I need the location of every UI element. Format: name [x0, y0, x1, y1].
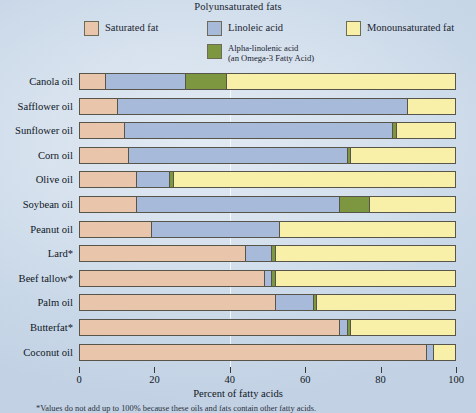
- x-axis-tick-label: 0: [76, 374, 81, 385]
- bar-row: [79, 98, 456, 115]
- x-axis-tick-label: 100: [448, 374, 464, 385]
- bar-segment: [350, 319, 456, 336]
- bar-segment: [339, 319, 347, 336]
- bar-segment: [396, 122, 456, 139]
- legend-swatch-alpha-linolenic-acid: [207, 44, 222, 59]
- bar-row-label: Olive oil: [0, 171, 73, 188]
- x-axis-tick: [230, 367, 231, 373]
- bar-row: [79, 122, 456, 139]
- bar-segment: [79, 270, 264, 287]
- x-axis-tick: [79, 367, 80, 373]
- bar-row: [79, 344, 456, 361]
- bar-segment: [79, 319, 339, 336]
- bar-segment: [79, 73, 105, 90]
- bar-segment: [151, 221, 279, 238]
- legend-label-linoleic-acid: Linoleic acid: [228, 21, 283, 33]
- bar-segment: [185, 73, 226, 90]
- bar-segment: [275, 270, 456, 287]
- x-axis-tick: [381, 367, 382, 373]
- bar-segment: [426, 344, 434, 361]
- x-axis-tick-label: 20: [149, 374, 160, 385]
- bar-segment: [275, 294, 313, 311]
- bar-row: [79, 171, 456, 188]
- bar-row: [79, 73, 456, 90]
- legend-entry-saturated-fat: Saturated fat: [84, 21, 158, 36]
- bar-row-label: Corn oil: [0, 147, 73, 164]
- x-axis-tick: [154, 367, 155, 373]
- bar-row: [79, 270, 456, 287]
- bar-segment: [407, 98, 456, 115]
- legend-entry-alpha-linolenic-acid: Alpha-linolenic acid (an Omega-3 Fatty A…: [207, 44, 314, 63]
- bar-segment: [245, 245, 271, 262]
- chart-page: Polyunsaturated fats Saturated fat Linol…: [0, 0, 476, 413]
- legend-swatch-saturated-fat: [84, 21, 99, 36]
- bar-row-label: Peanut oil: [0, 221, 73, 238]
- x-axis-tick: [456, 367, 457, 373]
- bar-row: [79, 319, 456, 336]
- bar-segment: [124, 122, 392, 139]
- bar-row: [79, 196, 456, 213]
- bar-segment: [128, 147, 347, 164]
- x-axis-tick: [305, 367, 306, 373]
- bar-segment: [105, 73, 184, 90]
- bar-segment: [79, 98, 117, 115]
- bar-chart-plot-area: Canola oilSafflower oilSunflower oilCorn…: [79, 73, 456, 367]
- bar-segment: [279, 221, 456, 238]
- x-axis-tick-label: 60: [300, 374, 311, 385]
- legend-entry-linoleic-acid: Linoleic acid: [207, 21, 283, 36]
- bar-row: [79, 294, 456, 311]
- legend-label-saturated-fat: Saturated fat: [105, 21, 158, 33]
- legend-label-monounsaturated-fat: Monounsaturated fat: [367, 21, 454, 33]
- bar-row-label: Lard*: [0, 245, 73, 262]
- bar-segment: [79, 245, 245, 262]
- bar-row-label: Beef tallow*: [0, 270, 73, 287]
- bar-segment: [136, 171, 170, 188]
- x-axis-title: Percent of fatty acids: [0, 388, 476, 399]
- bar-segment: [79, 122, 124, 139]
- x-axis-tick-label: 80: [375, 374, 386, 385]
- bar-row-label: Safflower oil: [0, 98, 73, 115]
- bar-segment: [79, 171, 136, 188]
- bar-segment: [79, 344, 426, 361]
- bar-segment: [275, 245, 456, 262]
- bar-row-label: Palm oil: [0, 294, 73, 311]
- legend-label-alpha-linolenic-acid: Alpha-linolenic acid (an Omega-3 Fatty A…: [228, 44, 314, 63]
- bar-segment: [226, 73, 456, 90]
- bar-row-label: Soybean oil: [0, 196, 73, 213]
- bar-segment: [117, 98, 407, 115]
- bar-row-label: Canola oil: [0, 73, 73, 90]
- bar-segment: [79, 147, 128, 164]
- x-axis-tick-label: 40: [225, 374, 236, 385]
- bar-row-label: Butterfat*: [0, 319, 73, 336]
- bar-segment: [264, 270, 272, 287]
- legend-swatch-linoleic-acid: [207, 21, 222, 36]
- legend-entry-monounsaturated-fat: Monounsaturated fat: [346, 21, 454, 36]
- bar-segment: [369, 196, 456, 213]
- bar-row: [79, 245, 456, 262]
- chart-footnote: *Values do not add up to 100% because th…: [36, 404, 476, 413]
- bar-row-label: Sunflower oil: [0, 122, 73, 139]
- bar-segment: [339, 196, 369, 213]
- bar-segment: [316, 294, 455, 311]
- bar-segment: [79, 196, 136, 213]
- bar-segment: [173, 171, 456, 188]
- bar-row-label: Coconut oil: [0, 344, 73, 361]
- bar-row: [79, 147, 456, 164]
- bar-row: [79, 221, 456, 238]
- bar-segment: [433, 344, 456, 361]
- bar-segment: [136, 196, 340, 213]
- legend-group-title: Polyunsaturated fats: [0, 1, 476, 12]
- legend-swatch-monounsaturated-fat: [346, 21, 361, 36]
- bar-segment: [79, 221, 151, 238]
- bar-segment: [79, 294, 275, 311]
- bar-segment: [350, 147, 456, 164]
